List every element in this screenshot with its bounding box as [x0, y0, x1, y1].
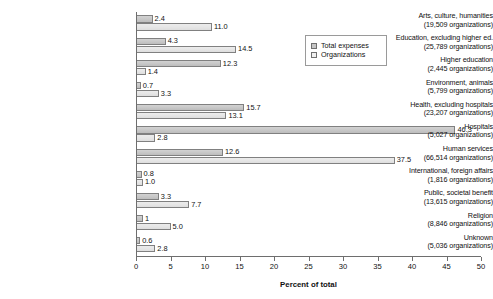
bar-total-expenses: [136, 15, 153, 22]
category-label: Hospitals(5,027 organizations): [363, 123, 493, 140]
bar-organizations: [136, 23, 212, 30]
x-axis-tick: [171, 257, 172, 261]
x-axis-tick-label: 50: [477, 262, 485, 271]
x-axis-tick-label: 45: [442, 262, 450, 271]
bar-organizations: [136, 245, 155, 252]
bar-organizations: [136, 46, 236, 53]
bar-total-expenses: [136, 60, 221, 67]
category-label: Higher education(2,445 organizations): [363, 56, 493, 73]
bar-value-label: 12.3: [223, 60, 237, 68]
category-label-count: (19,509 organizations): [363, 21, 493, 30]
bar-organizations: [136, 134, 155, 141]
bar-value-label: 0.6: [142, 237, 152, 245]
category-label-name: Higher education: [440, 55, 493, 64]
category-label: Unknown(5,036 organizations): [363, 234, 493, 251]
bar-organizations: [136, 157, 395, 164]
bar-value-label: 2.8: [157, 245, 167, 253]
x-axis-tick: [343, 257, 344, 261]
x-axis-tick-label: 0: [134, 262, 138, 271]
bar-value-label: 15.7: [246, 104, 260, 112]
bar-value-label: 12.6: [225, 148, 239, 156]
category-label-name: Arts, culture, humanities: [418, 11, 493, 20]
category-label: Public, societal benefit(13,615 organiza…: [363, 189, 493, 206]
category-label-count: (13,615 organizations): [363, 198, 493, 207]
category-label: International, foreign affairs(1,816 org…: [363, 167, 493, 184]
bar-organizations: [136, 201, 189, 208]
category-label-name: Education, excluding higher ed.: [396, 33, 493, 42]
bar-total-expenses: [136, 149, 223, 156]
bar-organizations: [136, 68, 146, 75]
bar-value-label: 2.4: [155, 15, 165, 23]
x-axis-tick-label: 25: [304, 262, 312, 271]
bar-total-expenses: [136, 38, 166, 45]
bar-value-label: 0.7: [143, 82, 153, 90]
bar-value-label: 4.3: [168, 37, 178, 45]
legend-swatch-icon-organizations: [311, 52, 317, 58]
bar-value-label: 1: [145, 215, 149, 223]
category-label: Human services(66,514 organizations): [363, 145, 493, 162]
x-axis-tick: [447, 257, 448, 261]
category-label-count: (25,789 organizations): [363, 43, 493, 52]
category-label: Education, excluding higher ed.(25,789 o…: [363, 34, 493, 51]
bar-value-label: 1.4: [148, 68, 158, 76]
x-axis-tick-label: 5: [168, 262, 172, 271]
bar-organizations: [136, 179, 143, 186]
legend-swatch-icon-total-expenses: [311, 43, 317, 49]
x-axis-tick: [136, 257, 137, 261]
bar-organizations: [136, 223, 171, 230]
bar-total-expenses: [136, 193, 159, 200]
x-axis-tick-label: 30: [339, 262, 347, 271]
category-label-count: (23,207 organizations): [363, 109, 493, 118]
category-label-count: (66,514 organizations): [363, 154, 493, 163]
legend-label-total-expenses: Total expenses: [321, 42, 369, 50]
category-label: Environment, animals(5,799 organizations…: [363, 79, 493, 96]
category-label-name: International, foreign affairs: [409, 166, 493, 175]
y-axis-line: [136, 12, 137, 257]
category-label-count: (5,027 organizations): [363, 131, 493, 140]
bar-total-expenses: [136, 215, 143, 222]
x-axis-tick-label: 40: [408, 262, 416, 271]
x-axis-tick: [309, 257, 310, 261]
bar-value-label: 2.8: [157, 134, 167, 142]
bar-value-label: 13.1: [228, 112, 242, 120]
bar-value-label: 5.0: [173, 223, 183, 231]
bar-value-label: 7.7: [191, 201, 201, 209]
x-axis-tick: [481, 257, 482, 261]
category-label: Arts, culture, humanities(19,509 organiz…: [363, 12, 493, 29]
bar-value-label: 1.0: [145, 178, 155, 186]
category-label-count: (5,799 organizations): [363, 87, 493, 96]
category-label-count: (1,816 organizations): [363, 176, 493, 185]
x-axis-tick: [240, 257, 241, 261]
category-label-name: Human services: [443, 144, 493, 153]
category-label-count: (5,036 organizations): [363, 242, 493, 251]
x-axis-tick-label: 35: [373, 262, 381, 271]
x-axis-tick: [274, 257, 275, 261]
bar-chart: 2.411.04.314.512.31.40.73.315.713.146.32…: [0, 0, 493, 299]
legend-label-organizations: Organizations: [321, 51, 365, 59]
category-label-count: (2,445 organizations): [363, 65, 493, 74]
x-axis-tick-label: 15: [235, 262, 243, 271]
category-label: Health, excluding hospitals(23,207 organ…: [363, 101, 493, 118]
x-axis-tick: [378, 257, 379, 261]
bar-value-label: 14.5: [238, 45, 252, 53]
x-axis-tick: [205, 257, 206, 261]
bar-value-label: 3.3: [161, 90, 171, 98]
bar-organizations: [136, 112, 226, 119]
bar-organizations: [136, 90, 159, 97]
x-axis-tick-label: 10: [201, 262, 209, 271]
bar-value-label: 3.3: [161, 193, 171, 201]
category-label-count: (8,846 organizations): [363, 220, 493, 229]
x-axis-tick-label: 20: [270, 262, 278, 271]
x-axis-title: Percent of total: [136, 280, 481, 289]
x-axis-tick: [412, 257, 413, 261]
category-label: Religion(8,846 organizations): [363, 212, 493, 229]
bar-value-label: 11.0: [214, 23, 228, 31]
